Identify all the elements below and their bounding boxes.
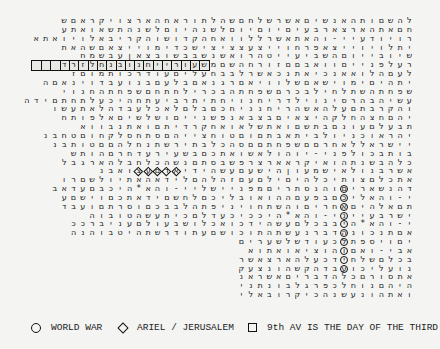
matrix-letter: ק	[293, 291, 302, 300]
matrix-letter	[22, 185, 31, 194]
matrix-letter: ה	[321, 291, 330, 300]
matrix-letter	[50, 159, 59, 168]
matrix-letter	[22, 61, 31, 70]
matrix-letter	[50, 291, 59, 300]
matrix-letter	[22, 52, 31, 61]
matrix-letter	[69, 282, 78, 291]
matrix-letter: ת	[69, 114, 78, 123]
matrix-letter	[41, 273, 50, 282]
matrix-letter: ל	[246, 291, 255, 300]
matrix-letter: ר	[88, 159, 97, 168]
matrix-row: חםאתהארצארבעיםיוםיוםלשנהיוםלשנהתשאואתע	[22, 26, 414, 35]
matrix-letter	[218, 256, 227, 265]
matrix-letter	[181, 238, 190, 247]
matrix-letter	[199, 256, 208, 265]
matrix-letter	[22, 203, 31, 212]
matrix-letter: ע	[199, 229, 208, 238]
matrix-letter	[162, 265, 171, 274]
matrix-letter	[32, 176, 41, 185]
matrix-letter: ם	[237, 238, 246, 247]
matrix-letter	[106, 273, 115, 282]
matrix-letter	[209, 273, 218, 282]
matrix-letter	[199, 265, 208, 274]
matrix-letter	[190, 247, 199, 256]
matrix-letter	[88, 238, 97, 247]
matrix-letter: ע	[349, 291, 358, 300]
matrix-letter	[190, 291, 199, 300]
matrix-letter	[181, 273, 190, 282]
matrix-letter	[190, 238, 199, 247]
matrix-letter	[22, 141, 31, 150]
matrix-letter: ו	[367, 291, 376, 300]
matrix-letter: ב	[50, 185, 59, 194]
matrix-letter	[106, 247, 115, 256]
matrix-letter	[78, 247, 87, 256]
matrix-letter	[41, 105, 50, 114]
matrix-letter	[22, 35, 31, 44]
matrix-letter: א	[69, 44, 78, 53]
matrix-letter: ש	[218, 229, 227, 238]
matrix-letter	[97, 273, 106, 282]
matrix-letter	[78, 282, 87, 291]
matrix-letter	[41, 256, 50, 265]
matrix-letter	[134, 256, 143, 265]
matrix-letter	[32, 70, 41, 79]
matrix-letter	[41, 291, 50, 300]
matrix-letter	[209, 238, 218, 247]
matrix-letter	[199, 273, 208, 282]
matrix-letter	[32, 123, 41, 132]
matrix-letter	[32, 44, 41, 53]
matrix-letter: ב	[69, 159, 78, 168]
matrix-letter	[97, 282, 106, 291]
matrix-letter	[22, 150, 31, 159]
matrix-letter	[60, 229, 69, 238]
matrix-letter	[32, 194, 41, 203]
matrix-letter	[209, 256, 218, 265]
matrix-letter	[32, 159, 41, 168]
matrix-letter	[227, 265, 236, 274]
matrix-letter	[171, 291, 180, 300]
legend: WORLD WAR ARIEL / JERUSALEM 9th AV IS TH…	[0, 320, 440, 338]
matrix-letter	[97, 247, 106, 256]
matrix-letter: ט	[116, 229, 125, 238]
matrix-letter	[22, 238, 31, 247]
matrix-row: תםאלהיםאחריםוהשתחויניפתהלבבכםוסרתםועבד	[22, 203, 414, 212]
matrix-letter	[32, 17, 41, 26]
matrix-letter: נ	[41, 132, 50, 141]
matrix-letter	[209, 265, 218, 274]
matrix-letter	[22, 265, 31, 274]
matrix-letter	[134, 291, 143, 300]
matrix-letter	[50, 247, 59, 256]
matrix-letter	[32, 273, 41, 282]
matrix-letter	[50, 44, 59, 53]
matrix-letter	[32, 105, 41, 114]
matrix-letter	[41, 247, 50, 256]
matrix-letter	[50, 52, 59, 61]
matrix-letter	[143, 273, 152, 282]
matrix-letter	[32, 291, 41, 300]
matrix-letter	[50, 220, 59, 229]
matrix-letter	[106, 291, 115, 300]
matrix-letter: ח	[60, 114, 69, 123]
matrix-letter: ר	[162, 229, 171, 238]
matrix-letter	[162, 256, 171, 265]
matrix-letter	[209, 247, 218, 256]
matrix-letter: ש	[339, 291, 348, 300]
diamond-icon	[117, 322, 128, 333]
matrix-letter: ד	[60, 61, 69, 70]
matrix-letter	[143, 265, 152, 274]
matrix-letter: ו	[227, 229, 236, 238]
matrix-letter	[69, 238, 78, 247]
matrix-letter	[106, 256, 115, 265]
matrix-letter	[143, 282, 152, 291]
matrix-letter	[116, 291, 125, 300]
matrix-letter	[134, 247, 143, 256]
matrix-letter	[88, 273, 97, 282]
matrix-letter: נ	[50, 141, 59, 150]
matrix-letter	[32, 141, 41, 150]
matrix-letter: א	[50, 35, 59, 44]
matrix-letter	[50, 194, 59, 203]
matrix-letter	[22, 229, 31, 238]
legend-label: WORLD WAR	[51, 322, 102, 333]
matrix-letter	[50, 150, 59, 159]
